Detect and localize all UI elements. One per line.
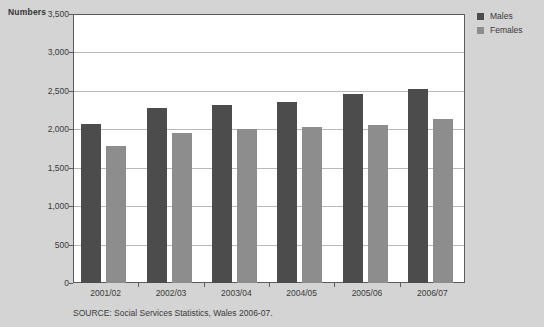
bar-females-2006-07 bbox=[433, 119, 453, 283]
bar-males-2003-04 bbox=[212, 105, 232, 283]
bar-males-2001-02 bbox=[81, 124, 101, 283]
x-tick-mark bbox=[138, 283, 139, 287]
x-tick-mark bbox=[204, 283, 205, 287]
bar-males-2002-03 bbox=[147, 108, 167, 283]
bar-males-2006-07 bbox=[408, 89, 428, 283]
x-tick-label: 2005/06 bbox=[334, 288, 399, 298]
legend-label: Females bbox=[490, 26, 523, 35]
bar-females-2001-02 bbox=[106, 146, 126, 283]
chart-figure: Numbers 05001,0001,5002,0002,5003,0003,5… bbox=[0, 0, 544, 327]
y-tick-label: 1,000 bbox=[35, 202, 69, 211]
y-tick-label: 2,500 bbox=[35, 87, 69, 96]
x-tick-mark bbox=[269, 283, 270, 287]
y-axis-ticks: 05001,0001,5002,0002,5003,0003,500 bbox=[29, 0, 69, 327]
bar-females-2004-05 bbox=[302, 127, 322, 283]
y-tick-label: 500 bbox=[35, 241, 69, 250]
y-tick-label: 3,500 bbox=[35, 10, 69, 19]
y-tick-label: 1,500 bbox=[35, 164, 69, 173]
legend-item-females[interactable]: Females bbox=[477, 26, 523, 35]
legend-swatch-males-icon bbox=[477, 13, 484, 20]
bar-females-2002-03 bbox=[172, 133, 192, 283]
bar-females-2005-06 bbox=[368, 125, 388, 283]
legend-label: Males bbox=[490, 12, 513, 21]
x-tick-label: 2004/05 bbox=[269, 288, 334, 298]
x-tick-mark bbox=[400, 283, 401, 287]
bar-series-layer bbox=[73, 14, 465, 283]
y-tick-label: 2,000 bbox=[35, 125, 69, 134]
y-tick-label: 0 bbox=[35, 279, 69, 288]
legend-swatch-females-icon bbox=[477, 27, 484, 34]
source-note: SOURCE: Social Services Statistics, Wale… bbox=[73, 308, 273, 318]
x-tick-label: 2006/07 bbox=[400, 288, 465, 298]
bar-females-2003-04 bbox=[237, 129, 257, 283]
chart-legend: MalesFemales bbox=[477, 12, 523, 40]
legend-item-males[interactable]: Males bbox=[477, 12, 523, 21]
y-tick-mark bbox=[69, 283, 73, 284]
bar-males-2004-05 bbox=[277, 102, 297, 283]
bar-males-2005-06 bbox=[343, 94, 363, 283]
x-tick-label: 2001/02 bbox=[73, 288, 138, 298]
x-tick-mark bbox=[334, 283, 335, 287]
x-tick-label: 2002/03 bbox=[138, 288, 203, 298]
y-tick-label: 3,000 bbox=[35, 48, 69, 57]
x-tick-label: 2003/04 bbox=[204, 288, 269, 298]
